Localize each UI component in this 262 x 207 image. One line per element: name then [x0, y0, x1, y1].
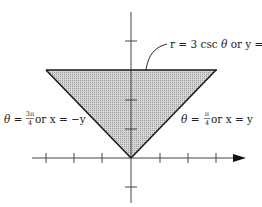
label-left-line: θ = 3π 4 or x = −y	[4, 110, 86, 127]
svg-text:θ =: θ =	[4, 113, 22, 125]
svg-text:θ =: θ =	[181, 113, 199, 125]
label-right-rest: or x = y	[211, 113, 253, 125]
label-right-eq: =	[187, 113, 199, 125]
label-top-line: r = 3 csc θ or y = 3	[170, 38, 262, 50]
label-left-rest: or x = −y	[35, 113, 86, 125]
label-right-frac-den: 4	[205, 119, 209, 127]
x-axis-arrow-icon	[233, 154, 246, 162]
polar-region-diagram: r = 3 csc θ or y = 3 θ = 3π 4 or x = −y …	[0, 0, 262, 207]
label-top-rhs: or y = 3	[227, 38, 262, 50]
label-right-line: θ = π 4 or x = y	[181, 110, 253, 127]
callout-leader	[146, 44, 167, 70]
label-top-lhs: r = 3 csc	[170, 38, 221, 50]
label-left-eq: =	[10, 113, 22, 125]
label-right-frac-num: π	[205, 110, 210, 118]
label-left-frac-num: 3π	[26, 110, 35, 118]
label-left-frac-den: 4	[28, 119, 32, 127]
